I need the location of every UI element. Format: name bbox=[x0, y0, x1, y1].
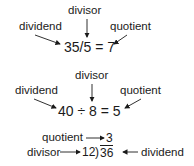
equation-1: 35/5 = 7 bbox=[64, 40, 115, 54]
quotient-label-1: quotient bbox=[110, 21, 151, 33]
quotient-label-3: quotient bbox=[42, 132, 83, 144]
equation-2: 40 ÷ 8 = 5 bbox=[58, 104, 121, 118]
dividend-label-2: dividend bbox=[15, 85, 58, 97]
quotient-label-2: quotient bbox=[120, 85, 161, 97]
dividend-label-3: dividend bbox=[141, 147, 184, 159]
dividend-value-3: 36 bbox=[100, 145, 113, 159]
dividend-label-1: dividend bbox=[19, 21, 62, 33]
quotient-value-3: 3 bbox=[106, 132, 113, 144]
division-bracket: ) bbox=[95, 146, 99, 158]
divisor-label-3: divisor bbox=[27, 147, 60, 159]
divisor-label-1: divisor bbox=[68, 5, 101, 17]
divisor-value-3: 12 bbox=[82, 146, 95, 158]
divisor-label-2: divisor bbox=[75, 70, 108, 82]
